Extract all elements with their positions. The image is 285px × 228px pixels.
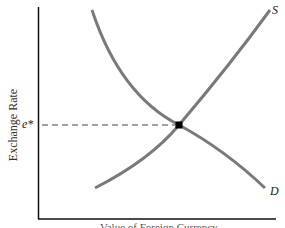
- equilibrium-rate-label: e*: [22, 117, 33, 132]
- chart-canvas: [0, 0, 285, 228]
- supply-curve: [95, 10, 270, 188]
- demand-curve: [92, 10, 265, 188]
- supply-label: S: [272, 3, 278, 18]
- y-axis-label: Exchange Rate: [6, 89, 21, 161]
- x-axis-label: Value of Foreign Currency: [100, 221, 218, 228]
- equilibrium-point: [176, 122, 183, 129]
- demand-label: D: [270, 184, 279, 199]
